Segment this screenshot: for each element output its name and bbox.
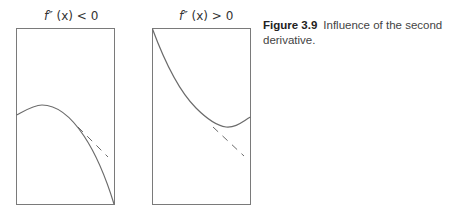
right-title-arg: (x) <box>192 9 208 23</box>
left-panel-title: f″ (x) < 0 <box>44 9 98 23</box>
right-tangent-dashed-line <box>213 127 244 156</box>
figure-caption: Figure 3.9Influence of the second deriva… <box>263 18 449 48</box>
left-concave-down-curve <box>17 105 115 204</box>
right-concave-up-curve <box>153 29 251 127</box>
right-title-rel: > 0 <box>212 9 234 23</box>
left-title-fn: f″ <box>44 9 53 23</box>
right-title-fn: f″ <box>179 9 188 23</box>
figure-label: Figure 3.9 <box>263 19 317 31</box>
right-panel-frame <box>153 29 251 205</box>
left-title-arg: (x) <box>57 9 73 23</box>
right-panel-title: f″ (x) > 0 <box>179 9 233 23</box>
left-title-rel: < 0 <box>77 9 99 23</box>
left-panel-frame <box>17 29 115 205</box>
